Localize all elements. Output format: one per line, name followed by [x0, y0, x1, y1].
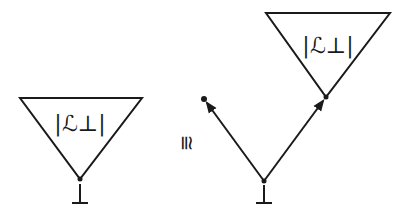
right-root-dot	[262, 179, 267, 184]
right-branch-arrow	[264, 101, 323, 181]
right-tree: |ℒ⊥|	[201, 13, 390, 203]
right-triangle-label: |ℒ⊥|	[302, 33, 354, 59]
diagram-canvas: |ℒ⊥| ≅ |ℒ⊥|	[0, 0, 409, 217]
left-root-dot	[78, 177, 83, 182]
isomorphism-glyph: ≅	[175, 135, 199, 152]
right-subtree-apex-dot	[324, 95, 329, 100]
left-leaf-dot	[201, 96, 207, 102]
isomorphism-symbol: ≅	[175, 135, 199, 152]
left-triangle-label: |ℒ⊥|	[54, 111, 106, 137]
left-branch-arrow	[207, 103, 264, 181]
left-tree: |ℒ⊥|	[20, 98, 142, 203]
